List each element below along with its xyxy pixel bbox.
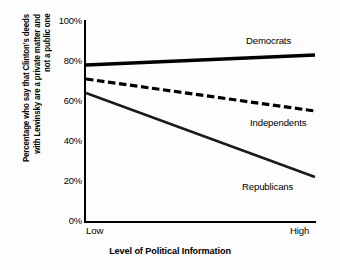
series-line-democrats bbox=[86, 55, 315, 65]
y-axis-title-line-2: with Lewinsky are a private matter and bbox=[32, 14, 43, 154]
y-axis-tick-labels: 100% 80% 60% 40% 20% 0% bbox=[49, 0, 82, 270]
y-tick-20: 20% bbox=[49, 176, 82, 185]
y-axis-title-line-1: Percentage who say that Clinton's deeds bbox=[21, 14, 32, 162]
x-tick-low: Low bbox=[86, 226, 103, 236]
y-tick-80: 80% bbox=[49, 56, 82, 65]
series-line-republicans bbox=[86, 93, 315, 177]
y-tick-0: 0% bbox=[49, 216, 82, 225]
series-label-democrats: Democrats bbox=[246, 36, 291, 46]
x-axis-title: Level of Political Information bbox=[9, 245, 332, 256]
chart-figure: Percentage who say that Clinton's deeds … bbox=[0, 0, 340, 270]
x-tick-high: High bbox=[290, 226, 309, 236]
series-label-independents: Independents bbox=[250, 118, 306, 128]
y-tick-40: 40% bbox=[49, 136, 82, 145]
series-label-republicans: Republicans bbox=[242, 182, 293, 192]
y-tick-60: 60% bbox=[49, 96, 82, 105]
x-axis-spine bbox=[84, 221, 316, 223]
y-tick-100: 100% bbox=[49, 16, 82, 25]
